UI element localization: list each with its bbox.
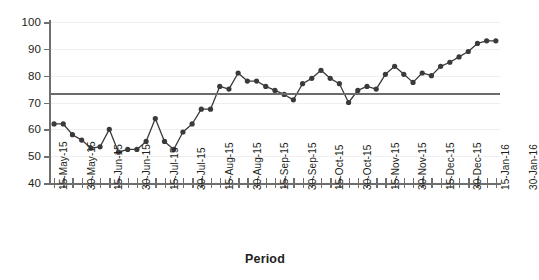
data-point [466,49,471,54]
x-axis-tick [128,178,129,188]
x-axis-tick [247,178,248,188]
data-point [236,70,241,75]
data-point [263,84,268,89]
x-axis-tick-label: 15-May-15 [58,141,69,190]
x-axis-tick [293,178,294,188]
data-point [475,41,480,46]
x-axis-tick [165,178,166,188]
x-axis-tick-label: 15-Aug-15 [224,142,235,190]
data-point [456,54,461,59]
x-axis-tick [330,178,331,188]
x-axis-tick [431,178,432,188]
data-point [217,84,222,89]
data-point [70,132,75,137]
y-axis-tick [44,22,49,24]
x-axis-tick [72,178,73,188]
x-axis-tick [192,178,193,188]
y-axis-tick [44,76,49,78]
x-axis-tick [275,178,276,188]
data-point [208,107,213,112]
x-axis-tick [238,178,239,188]
x-axis-tick [376,178,377,188]
y-axis-tick [44,183,49,185]
x-axis-tick [266,178,267,188]
data-point [364,84,369,89]
x-axis-tick-label: 15-Jul-15 [169,147,180,190]
data-point [125,147,130,152]
data-point [51,121,56,126]
y-axis-tick [44,129,49,131]
data-point [493,38,498,43]
y-axis-tick [44,49,49,51]
data-point [429,73,434,78]
x-axis-tick [441,178,442,188]
x-axis-tick-label: 30-Nov-15 [417,142,428,190]
data-point [162,139,167,144]
y-axis-tick [44,103,49,105]
x-axis-tick-label: 30-May-15 [86,141,97,190]
data-point [383,72,388,77]
x-axis-tick-label: 30-Oct-15 [362,145,373,190]
x-axis-tick [468,178,469,188]
data-point [410,80,415,85]
x-axis-tick [459,178,460,188]
data-point [374,86,379,91]
x-axis-title: Period [0,252,530,266]
x-axis-tick [220,178,221,188]
data-point [328,76,333,81]
x-axis-tick-label: 30-Dec-15 [472,142,483,190]
reference-line [49,93,500,95]
x-axis-tick [349,178,350,188]
x-axis-tick [385,178,386,188]
data-point [180,129,185,134]
data-point [97,144,102,149]
data-point [484,38,489,43]
x-axis-tick-label: 15-Jun-15 [113,144,124,190]
x-axis-tick-label: 15-Oct-15 [334,145,345,190]
x-axis-tick [487,178,488,188]
x-axis-tick-label: 30-Jun-15 [141,144,152,190]
x-axis-tick [183,178,184,188]
data-point [107,127,112,132]
data-point [447,60,452,65]
x-axis-tick [82,178,83,188]
x-axis-tick [413,178,414,188]
data-point [134,147,139,152]
data-point [420,70,425,75]
x-axis-tick-label: 15-Jan-16 [500,144,511,190]
data-point [226,86,231,91]
data-point [190,121,195,126]
x-axis-tick-label: 30-Sep-15 [307,142,318,190]
x-axis-tick-label: 15-Nov-15 [390,142,401,190]
series-line [54,41,496,152]
data-point [401,72,406,77]
data-point [337,81,342,86]
data-point [291,97,296,102]
data-point [309,76,314,81]
x-axis-tick [496,178,497,188]
x-axis-tick [404,178,405,188]
x-axis-tick [211,178,212,188]
data-point [79,137,84,142]
x-axis-tick [137,178,138,188]
data-point [61,121,66,126]
x-axis-tick [109,178,110,188]
data-point [392,64,397,69]
data-point [438,64,443,69]
data-point [153,116,158,121]
data-point [199,107,204,112]
x-axis-tick-label: 15-Dec-15 [445,142,456,190]
x-axis-tick [303,178,304,188]
y-axis-tick [44,156,49,158]
x-axis-tick-label: 30-Jan-16 [528,144,539,190]
x-axis-tick [358,178,359,188]
x-axis-tick-label: 30-Aug-15 [252,142,263,190]
x-axis-tick-label: 30-Jul-15 [196,147,207,190]
x-axis-tick [321,178,322,188]
data-point [245,78,250,83]
x-axis-tick [100,178,101,188]
x-axis-tick-label: 15-Sep-15 [279,142,290,190]
data-point [254,78,259,83]
